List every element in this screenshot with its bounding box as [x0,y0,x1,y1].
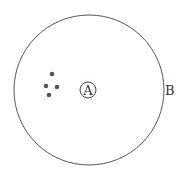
dot [55,85,60,90]
diagram-canvas: A B [0,0,187,176]
dot [47,93,52,98]
dot-cluster [44,72,60,98]
label-b: B [165,83,175,98]
dot [50,72,55,77]
dot [44,84,49,89]
label-a: A [82,83,93,98]
